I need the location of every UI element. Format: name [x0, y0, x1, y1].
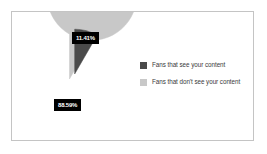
- pie-data-label-fans-that-see-your-content: 11.41%: [72, 32, 99, 44]
- chart-legend: Fans that see your content Fans that don…: [140, 60, 252, 94]
- pie-chart-plot-area: 11.41% 88.59%: [12, 12, 137, 140]
- legend-label-fans-that-see-your-content: Fans that see your content: [152, 62, 225, 68]
- legend-swatch-icon-fans-that-see-your-content: [140, 62, 147, 69]
- chart-frame: 11.41% 88.59% Fans that see your content…: [11, 11, 254, 141]
- pie-slice-fans-that-dont-see-your-content[interactable]: [47, 12, 137, 79]
- legend-item-fans-that-see-your-content[interactable]: Fans that see your content: [140, 60, 252, 70]
- legend-label-fans-that-dont-see-your-content: Fans that don't see your content: [152, 79, 240, 85]
- legend-swatch-icon-fans-that-dont-see-your-content: [140, 79, 147, 86]
- pie-data-label-fans-that-dont-see-your-content: 88.59%: [54, 99, 81, 111]
- legend-item-fans-that-dont-see-your-content[interactable]: Fans that don't see your content: [140, 77, 252, 87]
